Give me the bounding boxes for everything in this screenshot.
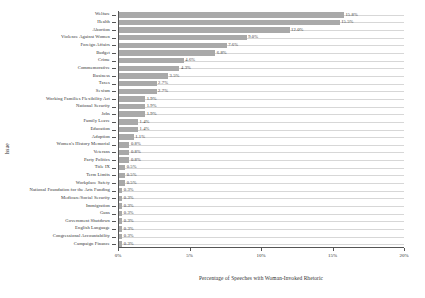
bar-chart: Issue WelfareHealthAbortionViolence Agai…: [0, 0, 425, 298]
bar-row[interactable]: 0.3%: [118, 187, 404, 195]
y-axis-tick-mark: [112, 198, 116, 199]
y-axis-tick-label: Government Shutdown: [65, 219, 110, 224]
bar[interactable]: [118, 111, 145, 117]
y-axis-tick-mark: [112, 175, 116, 176]
bar-value-label: 0.3%: [124, 211, 134, 216]
y-axis-tick-label: Sexism: [96, 89, 110, 94]
bar-row[interactable]: 1.1%: [118, 133, 404, 141]
y-axis-tick-label: Guns: [100, 211, 110, 216]
bar-row[interactable]: 0.3%: [118, 233, 404, 241]
bar-row[interactable]: 3.5%: [118, 72, 404, 80]
bar[interactable]: [118, 180, 125, 186]
bar-row[interactable]: 0.8%: [118, 149, 404, 157]
bar[interactable]: [118, 165, 125, 171]
bar[interactable]: [118, 27, 290, 33]
y-axis-tick-label: National Security: [76, 104, 110, 109]
bar-row[interactable]: 0.3%: [118, 210, 404, 218]
bar-row[interactable]: 0.8%: [118, 141, 404, 149]
bar-row[interactable]: 15.8%: [118, 11, 404, 19]
y-axis-tick-mark: [112, 99, 116, 100]
x-axis-tick-mark: [118, 248, 119, 251]
bar-row[interactable]: 0.5%: [118, 179, 404, 187]
bar[interactable]: [118, 81, 157, 87]
y-axis-tick-label: Campaign Finance: [74, 242, 110, 247]
bar[interactable]: [118, 12, 344, 18]
bar-value-label: 12.0%: [291, 28, 303, 33]
bar-row[interactable]: 4.6%: [118, 57, 404, 65]
bar-row[interactable]: 1.9%: [118, 103, 404, 111]
x-axis-tick-mark: [261, 248, 262, 251]
bar-row[interactable]: 4.3%: [118, 65, 404, 73]
bar-row[interactable]: 1.4%: [118, 126, 404, 134]
bar-value-label: 0.5%: [127, 173, 137, 178]
bar[interactable]: [118, 50, 215, 56]
y-axis-tick-mark: [112, 122, 116, 123]
bar-row[interactable]: 0.5%: [118, 164, 404, 172]
y-axis-tick-label: Violence Against Women: [61, 35, 110, 40]
y-axis-tick-mark: [112, 206, 116, 207]
bar-value-label: 0.5%: [127, 165, 137, 170]
bar[interactable]: [118, 150, 129, 156]
bar[interactable]: [118, 20, 340, 26]
bar-value-label: 1.4%: [140, 120, 150, 125]
y-axis-tick-label: Jobs: [101, 112, 110, 117]
y-axis-tick-label: Family Leave: [83, 119, 110, 124]
bar-row[interactable]: 0.8%: [118, 156, 404, 164]
x-axis-ticks: 0%5%10%15%20%: [118, 248, 404, 266]
bar[interactable]: [118, 66, 179, 72]
bar-row[interactable]: 7.6%: [118, 42, 404, 50]
y-axis-tick-label: Title IX: [95, 165, 110, 170]
bar-row[interactable]: 6.8%: [118, 49, 404, 57]
y-axis-tick-mark: [112, 229, 116, 230]
bar[interactable]: [118, 142, 129, 148]
bar[interactable]: [118, 157, 129, 163]
y-axis-tick-mark: [112, 237, 116, 238]
y-axis-tick-mark: [112, 130, 116, 131]
bar-value-label: 7.6%: [228, 43, 238, 48]
bar-row[interactable]: 2.7%: [118, 87, 404, 95]
bar-row[interactable]: 1.9%: [118, 95, 404, 103]
y-axis-tick-label: National Foundation for the Arts Funding: [30, 188, 110, 193]
bar-row[interactable]: 0.3%: [118, 225, 404, 233]
bar[interactable]: [118, 96, 145, 102]
x-axis-tick-mark: [333, 248, 334, 251]
bar-row[interactable]: 0.3%: [118, 194, 404, 202]
y-axis-tick-mark: [112, 30, 116, 31]
bar-row[interactable]: 9.0%: [118, 34, 404, 42]
y-axis-line: [118, 11, 119, 248]
bar[interactable]: [118, 58, 184, 64]
bar[interactable]: [118, 127, 138, 133]
y-axis-tick-mark: [112, 61, 116, 62]
y-axis-tick-mark: [112, 152, 116, 153]
bar-row[interactable]: 0.3%: [118, 202, 404, 210]
bar[interactable]: [118, 119, 138, 125]
y-axis-tick-mark: [112, 15, 116, 16]
y-axis-tick-label: Workplace Safety: [76, 181, 110, 186]
y-axis-tick-label: English Language: [75, 226, 110, 231]
bar-value-label: 1.9%: [147, 104, 157, 109]
bar[interactable]: [118, 35, 247, 41]
y-axis-tick-mark: [112, 22, 116, 23]
bar[interactable]: [118, 89, 157, 95]
plot-area: 15.8%15.5%12.0%9.0%7.6%6.8%4.6%4.3%3.5%2…: [118, 11, 404, 248]
y-axis-tick-label: Abortion: [93, 28, 110, 33]
y-axis-tick-label: Welfare: [95, 12, 110, 17]
bar[interactable]: [118, 173, 125, 179]
bar[interactable]: [118, 73, 168, 79]
bar-row[interactable]: 1.9%: [118, 110, 404, 118]
y-axis-tick-mark: [112, 76, 116, 77]
y-axis-tick-mark: [112, 160, 116, 161]
bar-row[interactable]: 15.5%: [118, 19, 404, 27]
bar-row[interactable]: 1.4%: [118, 118, 404, 126]
bar-value-label: 1.9%: [147, 97, 157, 102]
bar[interactable]: [118, 43, 227, 49]
bar-row[interactable]: 0.3%: [118, 217, 404, 225]
bar-row[interactable]: 2.7%: [118, 80, 404, 88]
bar[interactable]: [118, 104, 145, 110]
bar-row[interactable]: 12.0%: [118, 26, 404, 34]
bar-value-label: 0.3%: [124, 242, 134, 247]
y-axis-tick-label: Adoption: [92, 135, 110, 140]
bar[interactable]: [118, 134, 134, 140]
bar-value-label: 4.3%: [181, 66, 191, 71]
bar-row[interactable]: 0.5%: [118, 172, 404, 180]
